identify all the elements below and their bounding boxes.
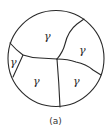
microstructure-diagram: γ γ γ γ γ [0, 0, 111, 133]
grain-label-bottom-right: γ [73, 75, 80, 88]
figure-caption: (a) [0, 116, 111, 126]
grain-label-right-upper: γ [79, 44, 86, 57]
grain-label-bottom-center: γ [33, 75, 40, 88]
grain-boundary-left [10, 43, 57, 59]
grain-label-top: γ [44, 30, 51, 43]
grain-boundary-right [57, 59, 101, 75]
grain-label-left-small: γ [10, 56, 17, 69]
grain-boundary-bottom [57, 59, 60, 107]
